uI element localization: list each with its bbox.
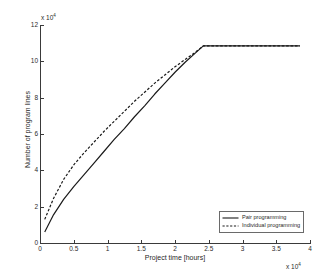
y-tick-mark [41, 207, 44, 208]
x-tick-label: 0 [38, 246, 42, 253]
x-tick-mark [276, 240, 277, 243]
x-axis-label: Project time [hours] [40, 254, 310, 261]
y-axis-label: Number of program lines [24, 60, 31, 200]
y-tick-mark [41, 98, 44, 99]
x-tick-mark [40, 240, 41, 243]
x-tick-mark [141, 240, 142, 243]
x-tick-mark [74, 240, 75, 243]
legend-sample-solid-line [222, 215, 239, 221]
x-multiplier-exponent: 4 [298, 262, 301, 267]
x-tick-label: 1 [106, 246, 110, 253]
y-multiplier-base: x 10 [41, 14, 53, 21]
x-axis-multiplier: x 104 [286, 262, 301, 270]
y-tick-mark [41, 134, 44, 135]
series-line-individual-programming [45, 46, 300, 219]
legend-label-individual-programming: Individual programming [242, 223, 300, 229]
y-tick-label: 4 [14, 167, 38, 174]
y-tick-mark [41, 170, 44, 171]
x-tick-label: 2 [173, 246, 177, 253]
figure-canvas: x 104 x 104 Number of program lines Proj… [0, 0, 325, 278]
y-multiplier-exponent: 4 [53, 13, 56, 18]
x-tick-label: 4 [308, 246, 312, 253]
x-tick-label: 0.5 [69, 246, 78, 253]
x-tick-mark [310, 240, 311, 243]
x-tick-label: 2.5 [204, 246, 213, 253]
y-tick-mark [41, 25, 44, 26]
legend-item-pair-programming[interactable]: Pair programming [222, 214, 300, 222]
chart-legend[interactable]: Pair programming Individual programming [219, 211, 304, 233]
y-axis-multiplier: x 104 [41, 13, 56, 21]
y-tick-label: 12 [14, 22, 38, 29]
y-tick-label: 0 [14, 240, 38, 247]
y-tick-label: 10 [14, 58, 38, 65]
x-tick-label: 3.5 [272, 246, 281, 253]
y-tick-label: 8 [14, 94, 38, 101]
y-tick-label: 6 [14, 131, 38, 138]
x-tick-mark [108, 240, 109, 243]
x-tick-label: 1.5 [137, 246, 146, 253]
series-line-pair-programming [45, 46, 300, 232]
x-tick-mark [243, 240, 244, 243]
x-tick-mark [175, 240, 176, 243]
legend-item-individual-programming[interactable]: Individual programming [222, 222, 300, 230]
legend-label-pair-programming: Pair programming [242, 215, 286, 221]
x-axis-spine [40, 243, 311, 244]
x-tick-mark [209, 240, 210, 243]
y-tick-mark [41, 61, 44, 62]
x-multiplier-base: x 10 [286, 263, 298, 270]
x-tick-label: 3 [241, 246, 245, 253]
y-tick-mark [41, 243, 44, 244]
legend-sample-dashed-line [222, 223, 239, 229]
y-tick-label: 2 [14, 203, 38, 210]
